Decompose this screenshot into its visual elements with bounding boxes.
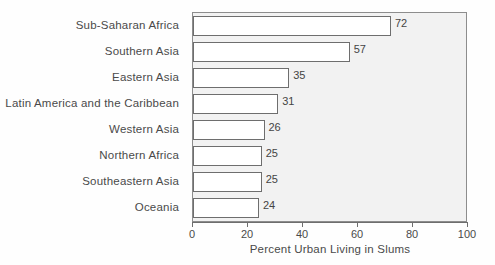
bar-row: 26 (193, 117, 466, 143)
x-tick-label: 20 (241, 228, 253, 240)
x-tick (247, 223, 248, 227)
bar-value-label: 24 (259, 199, 275, 211)
category-label: Northern Africa (0, 142, 186, 168)
bar-row: 25 (193, 143, 466, 169)
bar-value-label: 72 (391, 17, 407, 29)
x-tick-label: 60 (351, 228, 363, 240)
bar-row: 24 (193, 195, 466, 221)
bar (193, 146, 262, 166)
bar (193, 16, 391, 36)
x-tick-label: 0 (189, 228, 195, 240)
x-tick-label: 40 (296, 228, 308, 240)
category-label: Sub-Saharan Africa (0, 12, 186, 38)
category-label: Eastern Asia (0, 64, 186, 90)
x-axis-ticks: 020406080100 (192, 223, 468, 228)
bar-value-label: 25 (262, 173, 278, 185)
bar-row: 25 (193, 169, 466, 195)
bar-row: 57 (193, 39, 466, 65)
bar-row: 35 (193, 65, 466, 91)
bar-value-label: 57 (350, 43, 366, 55)
x-tick (467, 223, 468, 227)
x-tick (412, 223, 413, 227)
x-tick-label: 100 (458, 228, 476, 240)
category-label: Southern Asia (0, 38, 186, 64)
bar-row: 72 (193, 13, 466, 39)
slum-population-bar-chart: Sub-Saharan Africa Southern Asia Eastern… (0, 0, 495, 265)
category-label: Western Asia (0, 116, 186, 142)
category-label: Oceania (0, 194, 186, 220)
x-tick (192, 223, 193, 227)
bar-value-label: 31 (278, 95, 294, 107)
x-tick (302, 223, 303, 227)
category-label: Latin America and the Caribbean (0, 90, 186, 116)
x-tick (357, 223, 358, 227)
bar (193, 94, 278, 114)
bar-row: 31 (193, 91, 466, 117)
bar (193, 42, 350, 62)
category-label: Southeastern Asia (0, 168, 186, 194)
x-axis-title: Percent Urban Living in Slums (192, 243, 468, 255)
x-tick-label: 80 (406, 228, 418, 240)
bar (193, 172, 262, 192)
bar-value-label: 35 (289, 69, 305, 81)
bars-container: 72 57 35 31 26 25 (193, 13, 466, 221)
bar (193, 68, 289, 88)
bar (193, 198, 259, 218)
category-axis-labels: Sub-Saharan Africa Southern Asia Eastern… (0, 12, 186, 220)
plot-area: 72 57 35 31 26 25 (192, 12, 467, 222)
bar-value-label: 26 (265, 121, 281, 133)
bar (193, 120, 265, 140)
bar-value-label: 25 (262, 147, 278, 159)
